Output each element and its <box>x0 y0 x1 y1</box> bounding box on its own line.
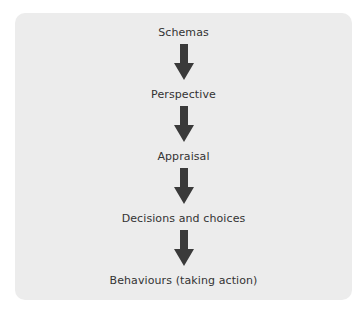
step-behaviours: Behaviours (taking action) <box>15 274 352 288</box>
down-arrow-icon <box>174 44 194 80</box>
step-appraisal: Appraisal <box>15 150 352 164</box>
step-decisions-and-choices: Decisions and choices <box>15 212 352 226</box>
down-arrow-icon <box>174 106 194 142</box>
step-perspective: Perspective <box>15 88 352 102</box>
down-arrow-icon <box>174 168 194 204</box>
down-arrow-icon <box>174 230 194 266</box>
step-schemas: Schemas <box>15 26 352 40</box>
flow-diagram-panel: Schemas Perspective Appraisal Decisions … <box>15 13 352 300</box>
